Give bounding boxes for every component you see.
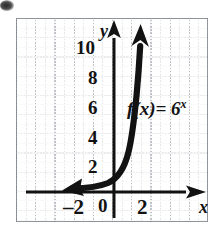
exponential-function-figure: 10 8 6 4 2 –2 0 2 y x f(x)= 6x xyxy=(0,0,221,229)
y-tick-label-10: 10 xyxy=(76,38,95,57)
y-tick-label-2: 2 xyxy=(88,157,98,176)
y-axis-arrowhead-icon xyxy=(107,20,121,38)
function-exponent: x xyxy=(181,97,187,111)
y-axis-label: y xyxy=(100,22,108,40)
x-tick-label-0: 0 xyxy=(98,196,108,215)
function-equation-text: f(x)= 6 xyxy=(127,98,181,119)
x-tick-label-neg2: –2 xyxy=(63,197,84,218)
x-axis-label: x xyxy=(199,198,208,216)
y-tick-label-4: 4 xyxy=(88,128,98,147)
y-tick-label-8: 8 xyxy=(88,68,98,87)
graph-ink-layer xyxy=(0,0,221,229)
y-tick-label-6: 6 xyxy=(88,98,98,117)
x-tick-label-2: 2 xyxy=(137,197,148,218)
function-equation-label: f(x)= 6x xyxy=(127,99,187,118)
